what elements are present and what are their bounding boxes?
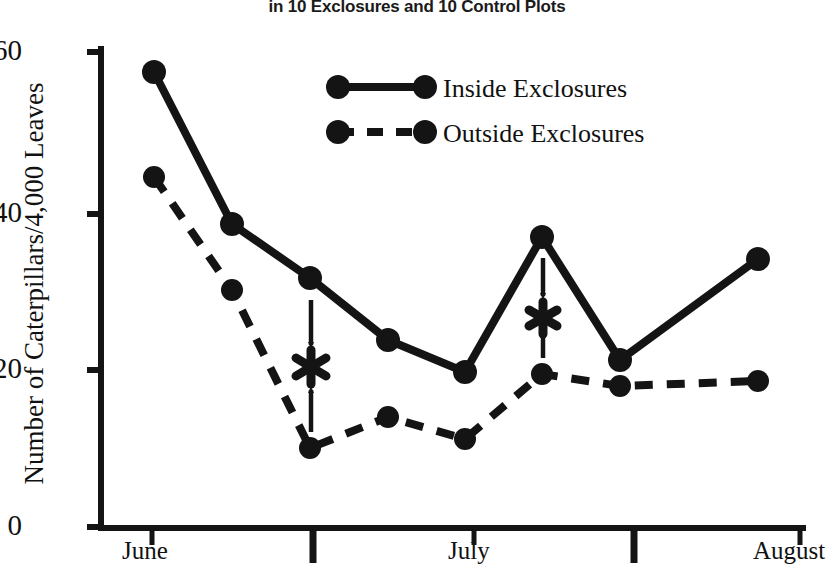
data-point (531, 363, 553, 385)
axis-lines (98, 46, 806, 529)
data-point (747, 370, 769, 392)
data-point (221, 279, 243, 301)
series-inside-exclosures (142, 60, 770, 384)
data-point (377, 406, 399, 428)
caterpillar-line-chart: in 10 Exclosures and 10 Control Plots Nu… (0, 0, 834, 580)
significance-annotation-2 (529, 258, 557, 358)
data-point (609, 375, 631, 397)
data-point (530, 225, 554, 249)
legend-swatch-outside (326, 120, 437, 144)
data-point (143, 166, 165, 188)
data-point (454, 428, 476, 450)
data-point (298, 266, 322, 290)
legend-swatch-inside (326, 75, 437, 99)
data-point (220, 212, 244, 236)
data-point (299, 437, 321, 459)
data-point (453, 360, 477, 384)
chart-canvas (0, 0, 834, 580)
asterisk-icon (529, 302, 557, 334)
asterisk-icon (296, 350, 326, 384)
data-point (376, 328, 400, 352)
series-outside-exclosures (143, 166, 769, 459)
significance-annotation-1 (296, 300, 326, 432)
data-point (608, 348, 632, 372)
x-axis-ticks (152, 528, 800, 563)
data-point (746, 247, 770, 271)
data-point (142, 60, 166, 84)
